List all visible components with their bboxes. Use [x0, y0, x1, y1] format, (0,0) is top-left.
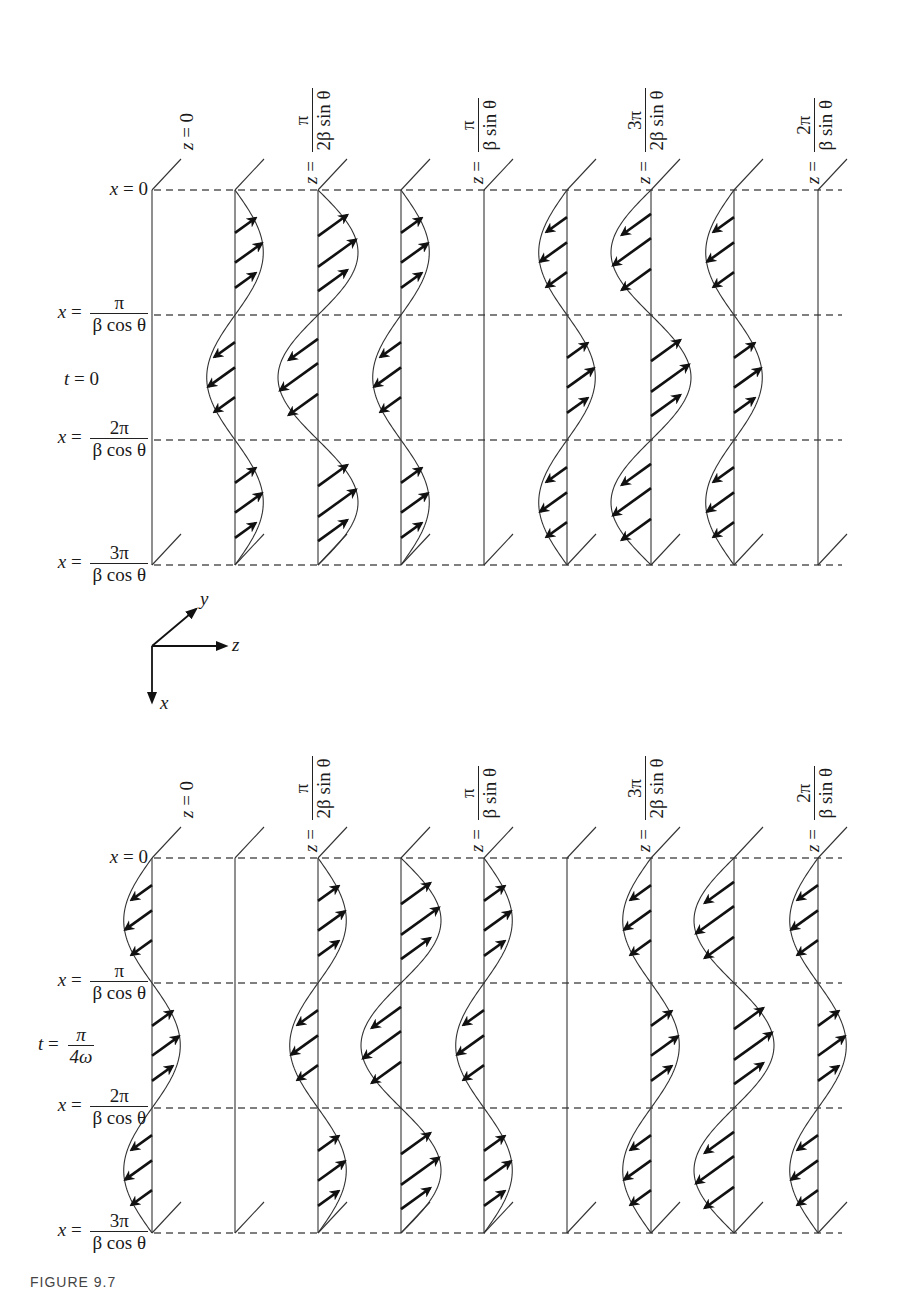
- wave-column: [456, 827, 513, 1233]
- y-direction-tick-bottom: [484, 534, 513, 565]
- wave-column: [818, 159, 847, 565]
- field-vector-arrow-icon: [380, 397, 401, 412]
- field-vector-arrow-icon: [280, 363, 318, 390]
- y-direction-tick-top: [734, 159, 763, 190]
- wave-column: [484, 159, 513, 565]
- field-vector-arrow-icon: [125, 910, 152, 929]
- field-vector-arrow-icon: [624, 1160, 651, 1179]
- field-vector-arrow-icon: [705, 937, 734, 958]
- field-vector-arrow-icon: [791, 1160, 818, 1179]
- field-vector-arrow-icon: [540, 492, 567, 511]
- field-vector-arrow-icon: [797, 1135, 818, 1150]
- field-vector-arrow-icon: [734, 398, 755, 413]
- field-vector-arrow-icon: [613, 238, 651, 265]
- field-vector-arrow-icon: [567, 343, 588, 358]
- y-axis-arrow-icon: [152, 609, 196, 646]
- panel-t-pi-over-4omega: [124, 827, 847, 1233]
- field-vector-arrow-icon: [318, 240, 356, 267]
- y-direction-tick-top: [401, 827, 430, 858]
- x-label-0-bottom: x = 0: [110, 846, 148, 868]
- field-vector-arrow-icon: [374, 367, 401, 386]
- y-direction-tick-bottom: [235, 1202, 264, 1233]
- wave-column: [290, 827, 347, 1233]
- field-vector-arrow-icon: [797, 1190, 818, 1205]
- field-vector-arrow-icon: [734, 1008, 763, 1029]
- wave-column: [278, 159, 358, 565]
- field-vector-arrow-icon: [484, 911, 511, 930]
- field-vector-arrow-icon: [651, 365, 689, 392]
- field-vector-arrow-icon: [235, 218, 256, 233]
- field-vector-arrow-icon: [318, 1161, 345, 1180]
- wave-column: [790, 827, 847, 1233]
- wave-column: [567, 827, 596, 1233]
- field-vector-arrow-icon: [797, 940, 818, 955]
- axis-label-z: z: [232, 634, 239, 656]
- field-vector-arrow-icon: [125, 1160, 152, 1179]
- field-vector-arrow-icon: [696, 1156, 734, 1183]
- y-direction-tick-bottom: [734, 1202, 763, 1233]
- field-vector-arrow-icon: [818, 1066, 839, 1081]
- y-direction-tick-bottom: [318, 1202, 347, 1233]
- field-vector-arrow-icon: [734, 1033, 772, 1060]
- field-vector-arrow-icon: [567, 368, 594, 387]
- field-vector-arrow-icon: [651, 1011, 672, 1026]
- field-vector-arrow-icon: [546, 467, 567, 482]
- field-vector-arrow-icon: [818, 1036, 845, 1055]
- field-vector-arrow-icon: [318, 911, 345, 930]
- field-vector-arrow-icon: [546, 272, 567, 287]
- field-vector-arrow-icon: [318, 886, 339, 901]
- field-vector-arrow-icon: [540, 242, 567, 261]
- field-vector-arrow-icon: [713, 217, 734, 232]
- field-vector-arrow-icon: [546, 217, 567, 232]
- field-vector-arrow-icon: [463, 1010, 484, 1025]
- x-label-3-top: x = 3πβ cos θ: [58, 543, 148, 585]
- panel-t-zero: [152, 159, 847, 565]
- z-label-4-top: z = 2πβ sin θ: [794, 98, 836, 184]
- field-vector-arrow-icon: [235, 523, 256, 538]
- y-direction-tick-bottom: [235, 534, 264, 565]
- y-direction-tick-bottom: [651, 1202, 680, 1233]
- field-vector-arrow-icon: [463, 1065, 484, 1080]
- z-label-0-top: z = 0: [176, 113, 198, 150]
- y-direction-tick-bottom: [484, 1202, 513, 1233]
- field-vector-arrow-icon: [318, 1136, 339, 1151]
- y-direction-tick-top: [235, 159, 264, 190]
- y-direction-tick-top: [152, 159, 181, 190]
- z-label-2-top: z = πβ sin θ: [458, 98, 500, 184]
- y-direction-tick-bottom: [152, 1202, 181, 1233]
- field-vector-arrow-icon: [484, 886, 505, 901]
- field-vector-arrow-icon: [363, 1031, 401, 1058]
- field-vector-arrow-icon: [630, 1135, 651, 1150]
- field-vector-arrow-icon: [152, 1036, 179, 1055]
- z-label-1-top: z = π2β sin θ: [292, 88, 334, 184]
- field-vector-arrow-icon: [235, 273, 256, 288]
- field-vector-arrow-icon: [152, 1011, 173, 1026]
- field-vector-arrow-icon: [651, 340, 680, 361]
- y-direction-tick-bottom: [401, 534, 430, 565]
- x-label-2-bottom: x = 2πβ cos θ: [58, 1086, 148, 1128]
- field-vector-arrow-icon: [131, 1135, 152, 1150]
- field-vector-arrow-icon: [291, 1035, 318, 1054]
- wave-column: [539, 159, 596, 565]
- y-direction-tick-top: [401, 159, 430, 190]
- wave-column: [361, 827, 441, 1233]
- field-vector-arrow-icon: [401, 493, 428, 512]
- field-vector-arrow-icon: [651, 1036, 678, 1055]
- x-label-1-top: x = πβ cos θ: [58, 293, 148, 335]
- field-vector-arrow-icon: [131, 885, 152, 900]
- z-label-3-top: z = 3π2β sin θ: [625, 88, 667, 184]
- field-vector-arrow-icon: [734, 343, 755, 358]
- field-vector-arrow-icon: [235, 468, 256, 483]
- y-direction-tick-bottom: [818, 1202, 847, 1233]
- field-vector-arrow-icon: [622, 519, 651, 540]
- field-vector-arrow-icon: [401, 468, 422, 483]
- time-label-bottom: t = π4ω: [38, 1025, 94, 1067]
- field-vector-arrow-icon: [152, 1066, 173, 1081]
- field-vector-arrow-icon: [457, 1035, 484, 1054]
- field-vector-arrow-icon: [791, 910, 818, 929]
- field-vector-arrow-icon: [696, 906, 734, 933]
- field-vector-arrow-icon: [797, 885, 818, 900]
- field-vector-arrow-icon: [318, 941, 339, 956]
- wave-column: [152, 159, 181, 565]
